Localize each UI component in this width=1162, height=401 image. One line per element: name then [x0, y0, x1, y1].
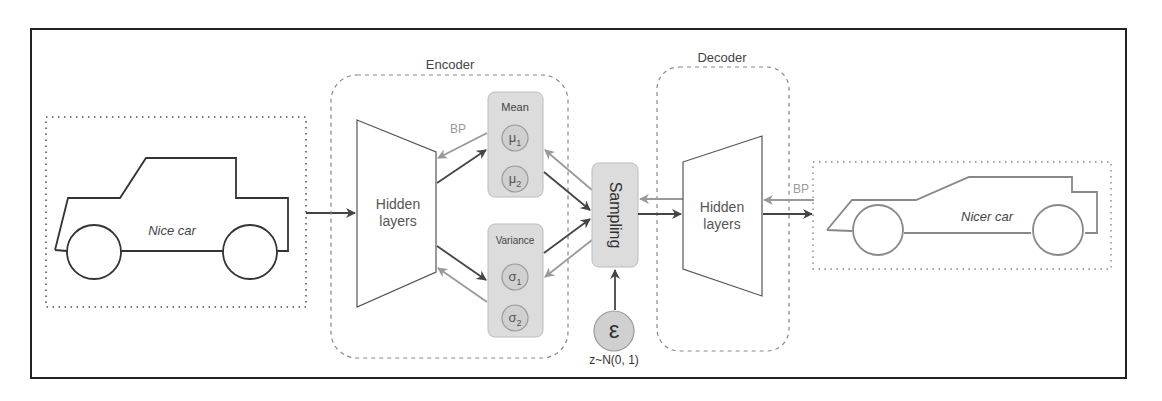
epsilon-symbol: ε [609, 316, 620, 344]
encoder-hidden-layers-label: Hidden layers [376, 196, 420, 230]
sigma2-label: σ2 [508, 310, 521, 328]
variance-label: Variance [496, 235, 535, 246]
decoder-title: Decoder [697, 50, 746, 65]
encoder-to-variance-arrow [437, 246, 486, 280]
mu2-label: μ2 [509, 171, 522, 189]
sampling-label: Sampling [606, 182, 624, 249]
input-label: Nice car [148, 223, 196, 238]
diagram-graphics [0, 0, 1162, 401]
epsilon-caption: z~N(0, 1) [589, 353, 639, 367]
decoder-hidden-layers-label: Hidden layers [700, 199, 744, 233]
mu1-label: μ1 [509, 130, 522, 148]
outer-frame [31, 29, 1126, 378]
input-image-box [46, 117, 306, 307]
vae-diagram: Nice car Nicer car Encoder Decoder Hidde… [0, 0, 1162, 401]
bp-variance-to-encoder-arrow [438, 268, 487, 302]
nice-car-icon [55, 158, 288, 279]
decoder-bp-label: BP [793, 182, 809, 196]
mean-label: Mean [501, 101, 529, 113]
encoder-bp-label: BP [450, 122, 466, 136]
mean-to-sampling-arrow [544, 172, 590, 210]
sigma1-label: σ1 [508, 269, 521, 287]
encoder-title: Encoder [426, 57, 474, 72]
output-label: Nicer car [961, 209, 1013, 224]
